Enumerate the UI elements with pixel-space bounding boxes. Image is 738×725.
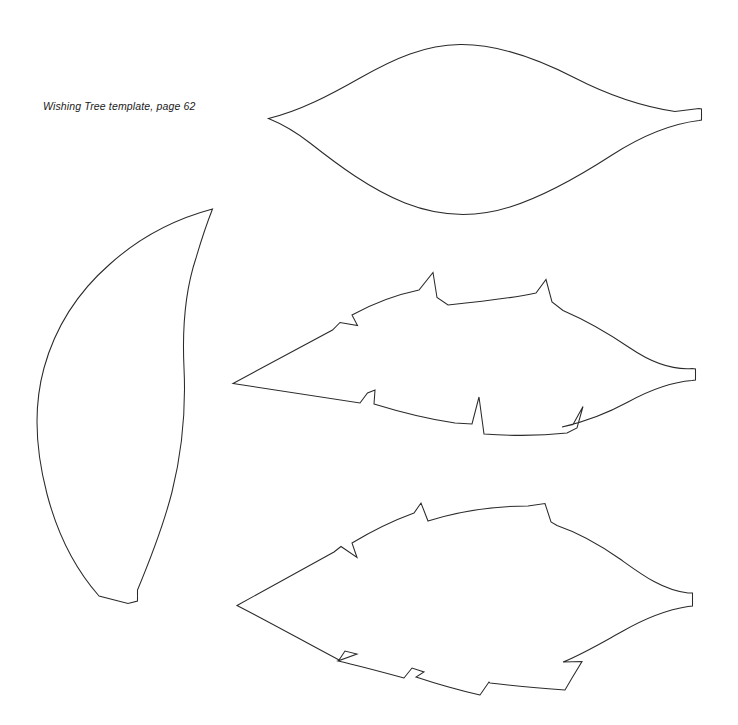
template-page: Wishing Tree template, page 62: [0, 0, 738, 725]
jagged-leaf-b-shape: [237, 503, 693, 695]
crescent-leaf-shape: [37, 209, 212, 604]
smooth-leaf-shape: [269, 44, 702, 214]
jagged-leaf-a-shape: [233, 273, 696, 436]
template-shapes-canvas: [0, 0, 738, 725]
